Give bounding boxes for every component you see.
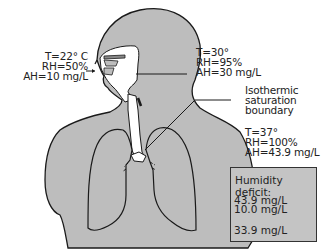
deficit-value-2: 10.0 mg/L [234, 205, 287, 214]
humidity-deficit-box: Humidity deficit: 43.9 mg/L 10.0 mg/L 33… [230, 167, 317, 242]
alveolar-label: T=37° RH=100% AH=43.9 mg/L [245, 127, 319, 157]
pharynx-label: T=30° RH=95% AH=30 mg/L [196, 47, 261, 77]
ambient-absolute-humidity: AH=10 mg/L [8, 71, 88, 81]
deficit-result: 33.9 mg/L [234, 226, 287, 235]
isothermic-boundary-label: Isothermic saturation boundary [245, 85, 298, 115]
body-silhouette [45, 9, 255, 248]
ambient-air-label: T=22° C RH=50% AH=10 mg/L [8, 51, 88, 81]
pharynx-absolute-humidity: AH=30 mg/L [196, 67, 261, 77]
alveolar-absolute-humidity: AH=43.9 mg/L [245, 147, 319, 157]
